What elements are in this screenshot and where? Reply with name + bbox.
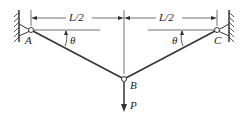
truss-diagram: L/2 L/2 A C B P θ θ: [0, 0, 248, 118]
angle-label-right: θ: [172, 34, 178, 46]
pin-b: [122, 77, 127, 82]
dimension-label-left: L/2: [68, 11, 84, 23]
label-b: B: [130, 79, 137, 91]
label-p: P: [129, 99, 137, 111]
label-c: C: [214, 34, 222, 46]
pin-a: [29, 28, 34, 33]
dimension-lines: [31, 10, 217, 74]
label-a: A: [24, 34, 32, 46]
load-arrow: [121, 82, 127, 112]
bar-cb: [124, 30, 217, 79]
pin-c: [215, 28, 220, 33]
angle-label-left: θ: [70, 34, 76, 46]
bar-ab: [31, 30, 124, 79]
dimension-label-right: L/2: [158, 11, 174, 23]
